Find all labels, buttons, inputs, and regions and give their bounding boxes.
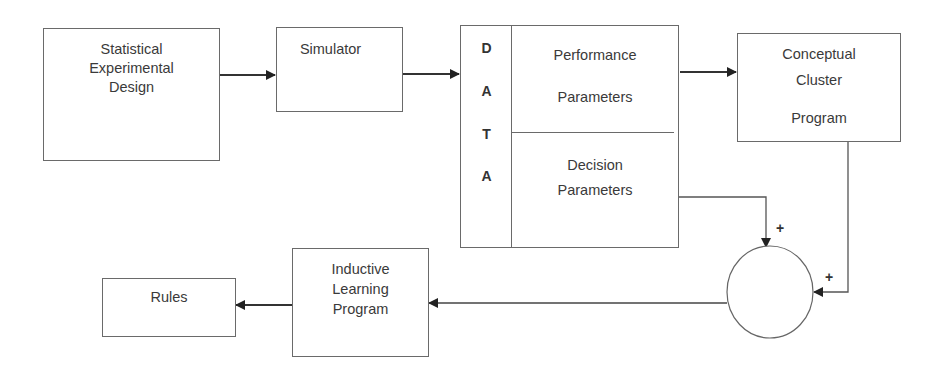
rules-label: Rules [103,288,235,307]
node-simulator: Simulator [276,27,403,112]
plus-sign-cluster: + [825,269,833,285]
cluster-label-3: Program [738,109,900,128]
performance-label-1: Performance [512,46,678,65]
experimental-design-label: Statistical Experimental Design [44,40,219,97]
node-experimental-design: Statistical Experimental Design [43,28,220,161]
inductive-label: Inductive Learning Program [293,259,428,319]
data-letter-t: T [461,126,512,142]
plus-sign-decision: + [776,220,784,236]
performance-label-2: Parameters [512,88,678,107]
summing-junction [727,246,813,338]
node-cluster: Conceptual Cluster Program [737,33,901,142]
data-divider-horizontal [512,132,674,133]
simulator-label: Simulator [277,40,384,59]
node-rules: Rules [102,278,236,337]
data-letter-a2: A [461,168,512,184]
node-inductive: Inductive Learning Program [292,248,429,357]
node-data: D A T A Performance Parameters Decision … [460,25,679,248]
arrow-decision-to-junction [678,197,766,247]
data-letter-a: A [461,83,512,99]
data-letter-d: D [461,40,512,56]
cluster-label-1: Conceptual [738,45,900,64]
cluster-label-2: Cluster [738,71,900,90]
decision-label: Decision Parameters [512,153,678,203]
